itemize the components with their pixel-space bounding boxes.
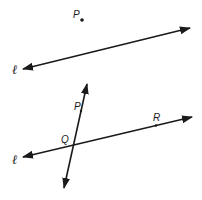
bottom-figure: ℓ P Q R [12, 84, 192, 188]
line-l-top-label: ℓ [12, 62, 18, 77]
point-q-label: Q [61, 134, 69, 145]
line-l-top [23, 28, 190, 69]
top-figure: P ℓ [12, 9, 190, 77]
point-r-label: R [153, 112, 160, 123]
point-r [155, 124, 157, 126]
line-l-bottom [23, 117, 192, 157]
point-p-label: P [73, 9, 80, 20]
point-p-bottom-label: P [74, 101, 81, 112]
line-l-bottom-label: ℓ [12, 152, 18, 167]
point-p-bottom [80, 110, 82, 112]
geometry-diagram: P ℓ ℓ P Q R [0, 0, 202, 200]
point-p [80, 18, 84, 22]
